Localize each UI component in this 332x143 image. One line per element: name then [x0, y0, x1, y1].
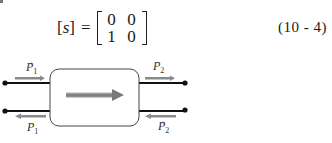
matrix: 0 0 1 0 [97, 11, 147, 45]
equation-number: (10 - 4) [278, 19, 327, 36]
scattering-matrix-equation: [s] = 0 0 1 0 [57, 10, 147, 46]
bracket-close: ] [69, 18, 75, 37]
two-port-network-diagram: P+1 P−2 P−1 P+2 [0, 55, 200, 143]
scan-artifact [0, 0, 3, 3]
label-p2-minus: P−2 [153, 59, 164, 75]
matrix-cell: 1 [102, 28, 122, 45]
matrix-cell: 0 [102, 11, 122, 28]
matrix-cell: 0 [122, 28, 142, 45]
equals-sign: = [81, 18, 91, 38]
label-p1-plus: P+1 [26, 60, 37, 76]
arrow-left-icon [15, 114, 46, 120]
label-p1-minus: P−1 [27, 120, 38, 136]
equation-lhs: [s] [57, 18, 75, 38]
arrow-right-icon [15, 76, 45, 82]
label-p2-plus: P+2 [158, 119, 169, 135]
arrow-right-icon [145, 76, 175, 82]
matrix-cell: 0 [122, 11, 142, 28]
